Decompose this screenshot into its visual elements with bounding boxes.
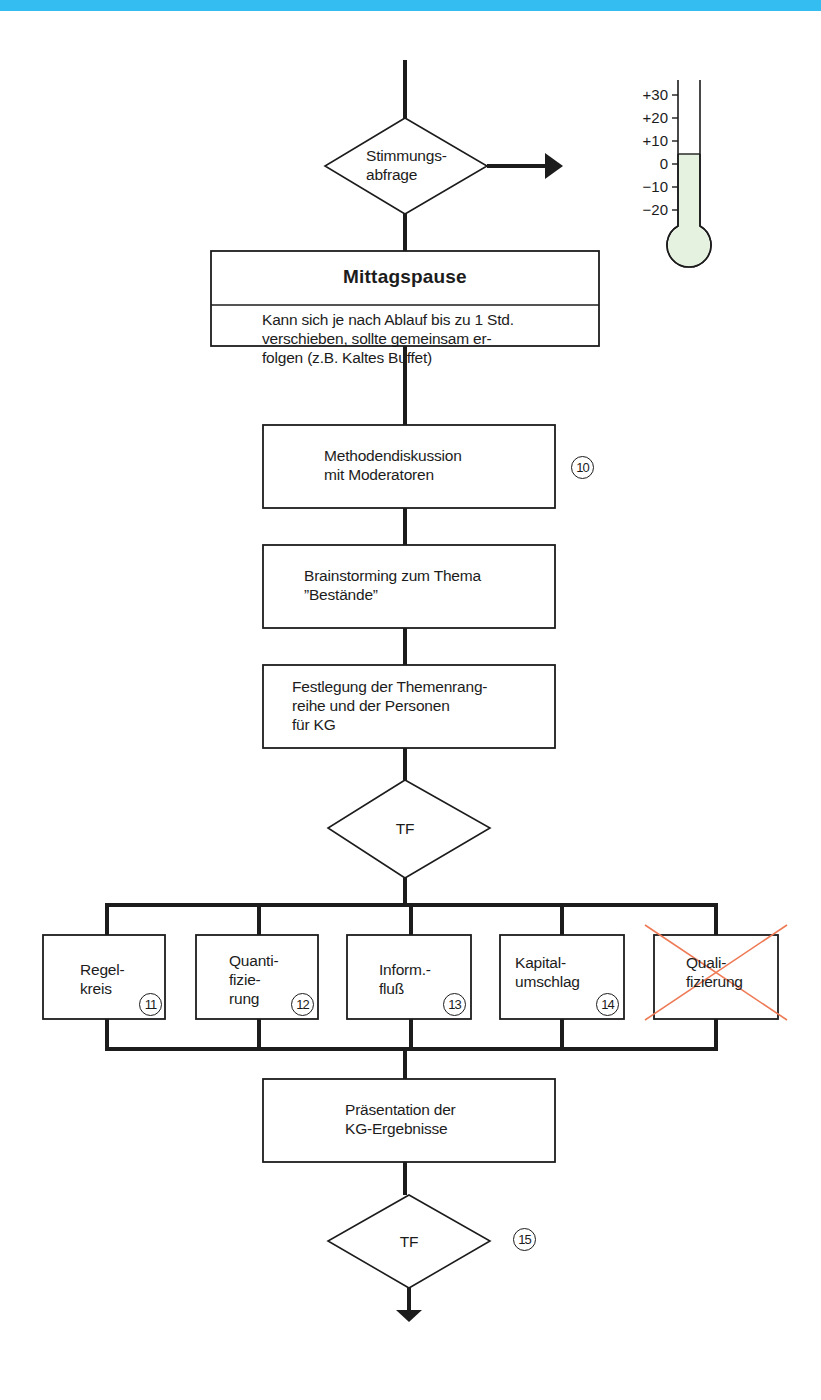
step-badge-13: 13 <box>443 993 466 1016</box>
lunch-title: Mittagspause <box>211 267 599 286</box>
group-label-quantifizierung: Quanti- fizie- rung <box>229 951 278 1008</box>
lunch-description: Kann sich je nach Ablauf bis zu 1 Std. v… <box>262 310 514 367</box>
decision-tf2-label: TF <box>384 1232 434 1251</box>
presentation-label: Präsentation der KG-Ergebnisse <box>345 1100 456 1138</box>
thermometer-ticks <box>672 95 678 210</box>
thermo-label-plus30: +30 <box>608 86 668 103</box>
method-label: Methodendiskussion mit Moderatoren <box>324 446 462 484</box>
thermo-label-plus20: +20 <box>608 109 668 126</box>
decision-tf-label: TF <box>380 819 430 838</box>
group-label-qualifizierung: Quali- fizierung <box>686 953 743 991</box>
step-badge-12: 12 <box>291 993 314 1016</box>
thermo-label-minus20: −20 <box>608 201 668 218</box>
step-badge-14: 14 <box>596 993 619 1016</box>
group-label-kapitalumschlag: Kapital- umschlag <box>515 953 580 991</box>
group-label-informfluss: Inform.- fluß <box>379 960 431 998</box>
arrow-down-icon <box>396 1310 422 1322</box>
step-badge-15: 15 <box>513 1228 536 1251</box>
definition-label: Festlegung der Themenrang- reihe und der… <box>292 677 487 734</box>
thermo-label-plus10: +10 <box>608 132 668 149</box>
step-badge-10: 10 <box>571 456 594 479</box>
thermo-label-minus10: −10 <box>608 178 668 195</box>
arrow-right-icon <box>545 153 563 179</box>
step-badge-11: 11 <box>139 993 162 1016</box>
brainstorm-label: Brainstorming zum Thema ”Bestände” <box>304 566 481 604</box>
decision-mood-label: Stimmungs- abfrage <box>366 146 447 184</box>
thermo-label-zero: 0 <box>608 155 668 172</box>
group-label-regelkreis: Regel- kreis <box>80 960 124 998</box>
